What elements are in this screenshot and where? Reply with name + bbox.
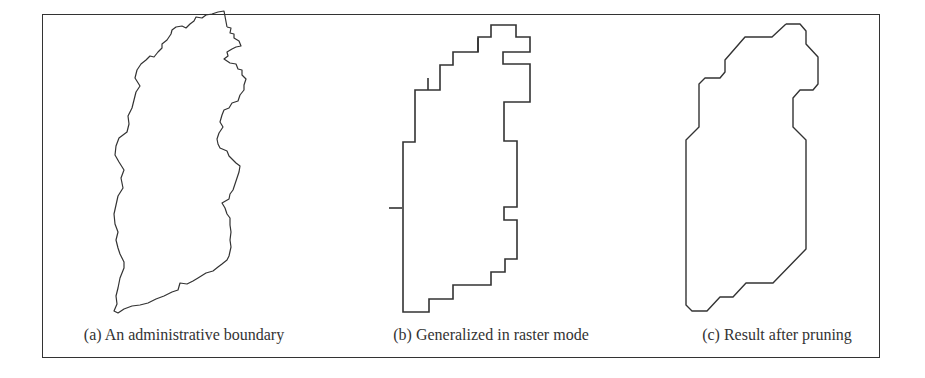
figure-panels <box>0 0 925 378</box>
panel-a-administrative-boundary <box>114 11 246 313</box>
caption-panel-a: (a) An administrative boundary <box>84 326 284 344</box>
boundary-outline-original <box>114 11 246 313</box>
panel-b-raster-generalized <box>389 25 530 312</box>
panel-c-pruned-result <box>686 24 818 311</box>
boundary-outline-raster <box>403 25 530 312</box>
caption-panel-c: (c) Result after pruning <box>702 326 852 344</box>
boundary-outline-pruned <box>686 24 818 311</box>
caption-panel-b: (b) Generalized in raster mode <box>393 326 588 344</box>
